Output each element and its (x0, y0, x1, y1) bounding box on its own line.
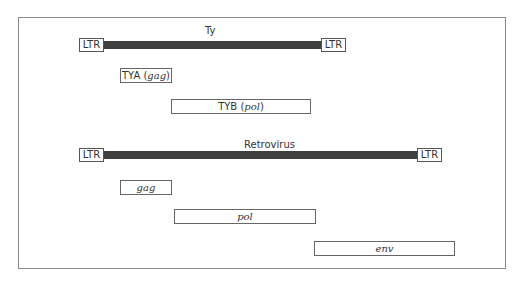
ty-ltr-left: LTR (79, 38, 104, 52)
env-gene-box: env (314, 241, 455, 256)
gag-gene-box: gag (120, 180, 172, 195)
retrovirus-title: Retrovirus (244, 139, 295, 150)
retrovirus-ltr-left: LTR (79, 148, 104, 162)
ty-title: Ty (205, 25, 215, 36)
tya-gene-box: TYA (gag) (120, 68, 172, 83)
tya-label: TYA (122, 70, 140, 81)
retrovirus-element-bar (103, 151, 417, 159)
tya-product: gag (147, 70, 166, 81)
tyb-gene-box: TYB (pol) (171, 99, 311, 114)
ty-ltr-right: LTR (321, 38, 346, 52)
pol-gene-box: pol (174, 209, 316, 224)
ty-element-bar (103, 41, 321, 49)
tyb-product: pol (244, 101, 260, 112)
retrovirus-ltr-right: LTR (417, 148, 442, 162)
tyb-label: TYB (218, 101, 237, 112)
